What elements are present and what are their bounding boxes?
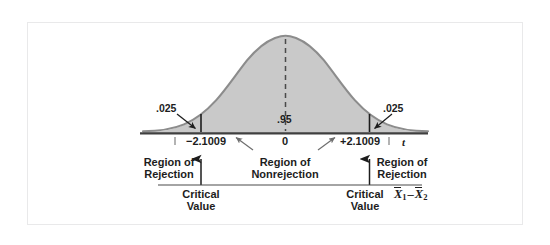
region-left: Region of Rejection: [141, 157, 197, 181]
confidence-center-label: .95: [277, 114, 292, 125]
alpha-left-label: .025: [156, 103, 176, 114]
region-center-line2: Nonrejection: [245, 169, 325, 181]
figure-root: .025 .025 .95 −2.1009 0 +2.1009 t Region…: [0, 0, 550, 245]
minus-symbol: –: [407, 187, 415, 201]
xbar1-subscript: 1: [402, 192, 406, 202]
tick-label-center: 0: [282, 136, 288, 148]
axis-label-t: t: [402, 137, 405, 149]
statistic-label-xbar-difference: X1–X2: [394, 188, 427, 202]
region-right-line2: Rejection: [374, 169, 430, 181]
xbar2-symbol: X: [415, 188, 423, 202]
xbar2-subscript: 2: [423, 192, 427, 202]
critical-value-left: Critical Value: [174, 189, 228, 213]
nonrejection-arrow-left: [236, 138, 253, 151]
tick-label-left: −2.1009: [186, 136, 226, 148]
region-center: Region of Nonrejection: [245, 157, 325, 181]
critical-value-right-line2: Value: [338, 201, 392, 213]
critical-value-left-line2: Value: [174, 201, 228, 213]
nonrejection-arrow-right: [318, 138, 335, 151]
distribution-diagram: [0, 0, 550, 245]
alpha-right-label: .025: [383, 103, 403, 114]
region-right: Region of Rejection: [374, 157, 430, 181]
critical-value-right: Critical Value: [338, 189, 392, 213]
region-left-line2: Rejection: [141, 169, 197, 181]
tick-label-right: +2.1009: [340, 136, 380, 148]
